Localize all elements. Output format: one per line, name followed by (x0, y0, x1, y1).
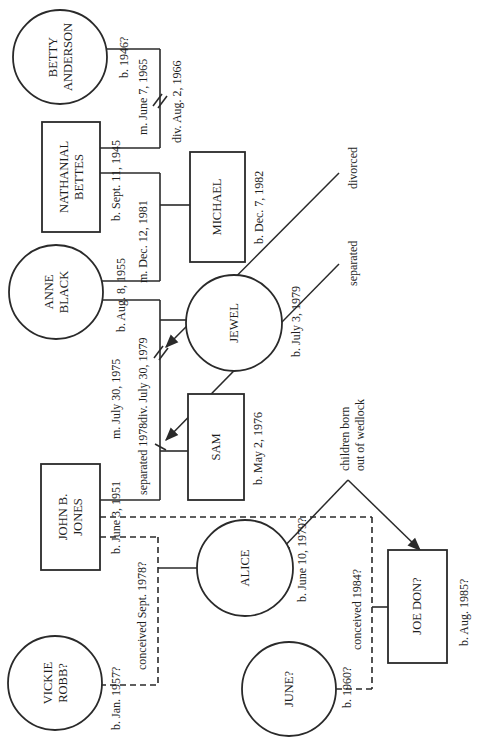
name-line1: SAM (209, 433, 223, 460)
name-line1: ALICE (238, 549, 252, 586)
annotation-wedlock-line2: out of wedlock (353, 399, 367, 471)
marriage-date-anne-john: m. July 30, 1975 (109, 359, 123, 439)
name-line1: ANNE (42, 274, 56, 309)
birth-michael: b. Dec. 7, 1982 (252, 171, 266, 244)
person-anne-black[interactable]: ANNE BLACK (9, 245, 103, 339)
name-line2: ROBB? (56, 663, 70, 703)
marriage-date-betty-nathanial: m. June 7, 1965 (136, 59, 150, 135)
person-michael[interactable]: MICHAEL (190, 152, 245, 262)
name-line2: BLACK (57, 271, 71, 313)
person-nathanial-bettes[interactable]: NATHANIAL BETTES (42, 122, 100, 232)
name-line2: JONES (71, 498, 85, 536)
birth-nathanial: b. Sept. 11, 1945 (109, 140, 123, 221)
divorce-date-anne-john: div. July 30, 1979 (136, 337, 150, 423)
annotation-wedlock-line1: children born (338, 407, 352, 471)
birth-john: b. June 3, 1951 (109, 481, 123, 554)
female-symbol (13, 10, 107, 104)
marriage-date-anne-nathanial: m. Dec. 12, 1981 (136, 200, 150, 283)
birth-alice: b. June 10, 1979? (295, 518, 309, 602)
person-sam[interactable]: SAM (188, 394, 244, 500)
person-jewel[interactable]: JEWEL (186, 275, 282, 371)
name-line1: JOHN B. (56, 494, 70, 541)
person-joe-don[interactable]: JOE DON? (388, 550, 447, 663)
name-line1: JOE DON? (410, 577, 424, 635)
name-line1: JEWEL (227, 303, 241, 343)
name-line1: BETTY (46, 37, 60, 77)
name-line1: NATHANIAL (57, 141, 71, 213)
name-line2: ANDERSON (61, 23, 75, 91)
female-symbol (9, 245, 103, 339)
divorce-date-betty-nathanial: div. Aug. 2, 1966 (170, 60, 184, 143)
conception-date-joedon: conceived 1984? (350, 569, 364, 650)
birth-vickie: b. Jan. 1957? (109, 667, 123, 730)
marriage-line-betty-nathanial (100, 49, 167, 148)
birth-sam: b. May 2, 1976 (251, 412, 265, 485)
name-line1: MICHAEL (210, 179, 224, 236)
birth-joedon: b. Aug. 1985? (457, 579, 471, 646)
genogram-canvas: BETTY ANDERSON b. 1946? NATHANIAL BETTES… (0, 0, 479, 738)
birth-betty: b. 1946? (117, 37, 131, 78)
name-line1: VICKIE (41, 661, 55, 704)
name-line2: BETTES (72, 154, 86, 200)
annotation-divorced: divorced (346, 147, 360, 189)
person-john-b-jones[interactable]: JOHN B. JONES (41, 464, 100, 570)
male-symbol (42, 122, 100, 232)
female-symbol (8, 636, 102, 730)
annotation-separated: separated (346, 241, 360, 286)
birth-jewel: b. July 3, 1979 (289, 286, 303, 357)
person-june[interactable]: JUNE? (242, 642, 336, 736)
person-vickie-robb[interactable]: VICKIE ROBB? (8, 636, 102, 730)
separation-date-anne-john: separated 1978 (136, 423, 150, 495)
birth-june: b. 1960? (340, 667, 354, 708)
birth-anne: b. Aug. 8, 1955 (114, 258, 128, 332)
conception-date-alice: conceived Sept. 1978? (135, 562, 149, 670)
person-betty-anderson[interactable]: BETTY ANDERSON (13, 10, 107, 104)
name-line1: JUNE? (282, 671, 296, 708)
person-alice[interactable]: ALICE (197, 520, 293, 616)
